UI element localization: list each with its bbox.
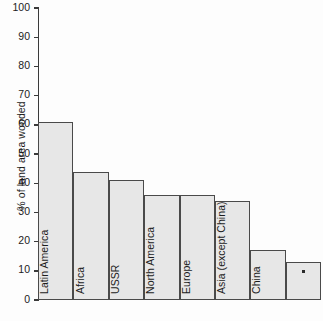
bar-label: China: [250, 266, 262, 299]
bar: North America: [144, 195, 179, 300]
plot-area: 0102030405060708090100 Latin AmericaAfri…: [38, 8, 321, 300]
bar: China: [250, 250, 285, 300]
bar: Latin America: [38, 122, 73, 300]
bars-layer: Latin AmericaAfricaUSSRNorth AmericaEuro…: [38, 8, 321, 300]
bar-label: Asia (except China): [215, 201, 227, 299]
bar: Asia (except China): [215, 201, 250, 300]
y-tick-label: 100: [0, 1, 30, 13]
y-tick-label: 60: [0, 117, 30, 129]
y-tick-label: 30: [0, 205, 30, 217]
bar: [286, 262, 321, 300]
y-tick-label: 70: [0, 88, 30, 100]
bar-label: North America: [144, 227, 156, 299]
bar-label: Latin America: [38, 230, 50, 299]
bar-label: USSR: [109, 265, 121, 299]
asterisk-marker-icon: [302, 270, 305, 273]
y-tick-label: 10: [0, 263, 30, 275]
y-tick-label: 90: [0, 30, 30, 42]
bar-chart: % of land area wooded 010203040506070809…: [0, 0, 323, 321]
bar-label: Africa: [74, 267, 86, 299]
bar: Africa: [73, 172, 108, 300]
y-tick-label: 20: [0, 234, 30, 246]
y-tick-label: 40: [0, 176, 30, 188]
y-tick-label: 0: [0, 293, 30, 305]
y-tick-label: 50: [0, 147, 30, 159]
bar: USSR: [109, 180, 144, 300]
bar-label: Europe: [180, 260, 192, 299]
y-tick-label: 80: [0, 59, 30, 71]
bar: Europe: [180, 195, 215, 300]
